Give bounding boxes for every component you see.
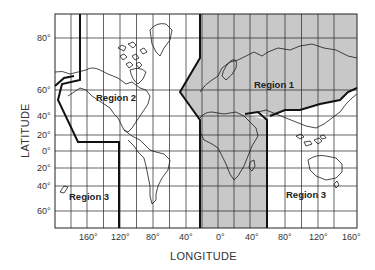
lat-tick-40s: 40° (37, 181, 51, 191)
lon-tick-120e: 120° (309, 232, 328, 242)
lon-tick-0: 0° (216, 232, 225, 242)
lat-tick-60n: 60° (37, 85, 51, 95)
region-1-label: Region 1 (254, 79, 294, 90)
longitude-axis-title: LONGITUDE (170, 250, 237, 262)
lon-tick-160w: 160° (79, 232, 98, 242)
region-3-east-label: Region 3 (286, 189, 326, 200)
lon-tick-80w: 80° (146, 232, 160, 242)
lon-tick-80e: 80° (278, 232, 292, 242)
lat-tick-20n: 20° (37, 130, 51, 140)
lat-tick-80n: 80° (37, 33, 51, 43)
lon-tick-160e: 160° (342, 232, 361, 242)
lat-tick-20s: 20° (37, 163, 51, 173)
region-map (0, 0, 375, 270)
lat-tick-60s: 60° (37, 206, 51, 216)
lon-tick-120w: 120° (111, 232, 130, 242)
region-2-label: Region 2 (96, 92, 136, 103)
region-1-shade (180, 14, 357, 228)
lon-tick-40w: 40° (179, 232, 193, 242)
region-3-west-label: Region 3 (69, 191, 109, 202)
lat-tick-40n: 40° (37, 111, 51, 121)
lat-tick-0: 0° (42, 146, 51, 156)
lon-tick-40e: 40° (245, 232, 259, 242)
latitude-axis-title: LATITUDE (19, 103, 31, 158)
